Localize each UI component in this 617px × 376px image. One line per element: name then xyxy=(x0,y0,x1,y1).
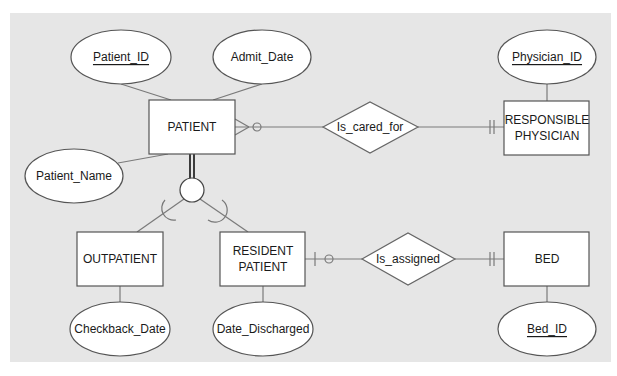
entity-label-line1: RESIDENT xyxy=(233,244,294,258)
attribute-label: Patient_ID xyxy=(93,50,149,64)
attribute-label: Checkback_Date xyxy=(74,322,166,336)
attribute-label: Patient_Name xyxy=(36,169,112,183)
attribute-admit-date: Admit_Date xyxy=(213,30,311,84)
entity-patient: PATIENT xyxy=(149,100,235,154)
specialization-circle xyxy=(180,178,204,202)
attribute-label: Bed_ID xyxy=(527,322,567,336)
relationship-label: Is_cared_for xyxy=(337,120,404,134)
attribute-label: Physician_ID xyxy=(512,50,582,64)
attribute-date-discharged: Date_Discharged xyxy=(213,302,313,356)
er-diagram: Patient_ID Admit_Date Patient_Name Physi… xyxy=(0,0,617,376)
entity-label: PATIENT xyxy=(168,120,218,134)
attribute-checkback-date: Checkback_Date xyxy=(70,302,170,356)
entity-outpatient: OUTPATIENT xyxy=(77,232,163,286)
attribute-patient-id: Patient_ID xyxy=(71,30,171,84)
attribute-label: Admit_Date xyxy=(231,50,294,64)
entity-label: BED xyxy=(535,252,560,266)
entity-label-line2: PATIENT xyxy=(239,260,289,274)
entity-label-line1: RESPONSIBLE xyxy=(505,113,590,127)
entity-bed: BED xyxy=(504,232,589,286)
attribute-patient-name: Patient_Name xyxy=(25,149,123,203)
entity-label: OUTPATIENT xyxy=(83,252,158,266)
entity-responsible-physician: RESPONSIBLE PHYSICIAN xyxy=(504,101,589,155)
attribute-bed-id: Bed_ID xyxy=(498,302,596,356)
entity-resident-patient: RESIDENT PATIENT xyxy=(220,232,305,286)
relationship-label: Is_assigned xyxy=(376,252,440,266)
entity-label-line2: PHYSICIAN xyxy=(515,129,580,143)
attribute-physician-id: Physician_ID xyxy=(498,30,596,84)
attribute-label: Date_Discharged xyxy=(217,322,310,336)
